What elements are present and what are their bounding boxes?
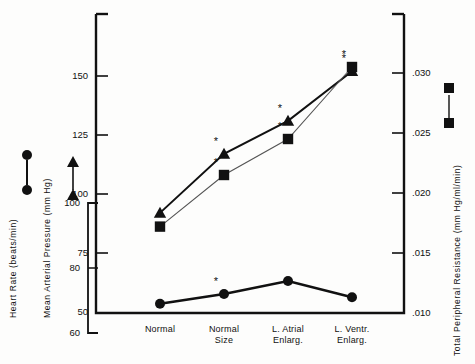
hr-tick-label: 80 <box>50 262 80 273</box>
hr-tick-label: 60 <box>50 327 80 338</box>
legend-marker-heart-rate-circle <box>22 185 32 195</box>
heart-rate-axis-title: Heart Rate (beats/min) <box>8 219 18 318</box>
tpr-tick-label: .025 <box>412 127 446 138</box>
data-point-circle <box>283 276 293 286</box>
map-tick-label: 150 <box>58 70 88 81</box>
tpr-tick-label: .020 <box>412 187 446 198</box>
legend-marker-map-triangle <box>67 156 79 167</box>
plot-frame <box>96 14 404 313</box>
x-axis-category-line: Enlarg. <box>307 335 397 346</box>
series-line-square <box>160 67 352 227</box>
significance-asterisk: * <box>214 275 219 287</box>
data-point-triangle <box>218 148 230 159</box>
hr-tick-label: 100 <box>50 197 80 208</box>
x-axis-category-line: L. Ventr. <box>307 324 397 335</box>
map-tick-label: 50 <box>58 306 88 317</box>
data-point-square <box>155 221 165 231</box>
map-tick-label: 125 <box>58 129 88 140</box>
legend-markers <box>22 83 454 200</box>
data-point-square <box>347 62 357 72</box>
series-line-triangle <box>160 71 352 213</box>
data-point-circle <box>155 299 165 309</box>
significance-asterisk: * <box>278 120 283 132</box>
data-point-circle <box>219 289 229 299</box>
significance-asterisk: * <box>214 135 219 147</box>
tpr-tick-label: .010 <box>412 307 446 318</box>
data-point-square <box>283 134 293 144</box>
significance-asterisk: * <box>278 102 283 114</box>
x-axis-category-label: L. Ventr.Enlarg. <box>307 324 397 346</box>
data-point-square <box>219 170 229 180</box>
tpr-tick-label: .015 <box>412 247 446 258</box>
significance-asterisk: * <box>342 48 347 60</box>
tpr-axis-title: Total Peripheral Resistance (mm Hg/ml/mi… <box>452 165 462 356</box>
data-point-circle <box>347 292 357 302</box>
map-tick-label: 75 <box>58 247 88 258</box>
map-axis-title: Mean Arterial Pressure (mm Hg) <box>42 178 52 318</box>
tpr-tick-label: .030 <box>412 67 446 78</box>
significance-asterisk: * <box>214 156 219 168</box>
plot-layer: ******* <box>22 14 454 333</box>
series-line-circle <box>160 281 352 304</box>
legend-marker-tpr-square <box>444 83 454 93</box>
legend-marker-heart-rate-circle <box>22 150 32 160</box>
